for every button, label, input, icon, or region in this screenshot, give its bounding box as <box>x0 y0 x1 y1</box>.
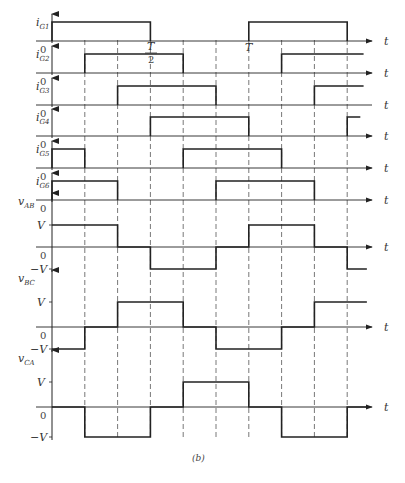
gate-pulse <box>314 86 363 105</box>
gate-pulse <box>216 181 314 200</box>
zero-label: 0 <box>40 171 46 182</box>
gate-row-iG6: t0iG6 <box>36 173 389 214</box>
zero-label: 0 <box>40 410 46 421</box>
gate-pulse <box>150 117 248 136</box>
voltage-row-vBC: t0V−VvBC <box>18 270 389 356</box>
gate-row-iG3: t0iG3 <box>36 78 389 119</box>
half-period-numerator: T <box>147 40 156 53</box>
positive-level-label: V <box>37 219 46 232</box>
time-axis-label: t <box>384 162 389 175</box>
zero-label: 0 <box>40 250 46 261</box>
time-axis-label: t <box>384 321 389 334</box>
gate-pulse <box>52 181 118 200</box>
voltage-waveform <box>52 302 367 349</box>
voltage-row-vAB: t0V−VvAB <box>18 193 389 276</box>
positive-level-label: V <box>37 296 46 309</box>
figure-caption: (b) <box>192 453 205 463</box>
negative-level-label: −V <box>30 431 48 444</box>
zero-label: 0 <box>40 76 46 87</box>
time-axis-label: t <box>384 194 389 207</box>
gate-pulse <box>282 54 364 73</box>
time-axis-label: t <box>384 35 389 48</box>
voltage-row-vCA: t0V−VvCA <box>18 350 389 444</box>
signal-label: iG1 <box>36 16 50 31</box>
gate-row-iG1: t0iG1 <box>36 14 389 55</box>
time-axis-label: t <box>384 241 389 254</box>
time-axis-label: t <box>384 401 389 414</box>
inverter-waveform-diagram: t0iG1t0iG2t0iG3t0iG4t0iG5t0iG6t0V−VvABt0… <box>0 0 405 483</box>
period-markers: T 2 T <box>145 40 254 65</box>
gate-pulse <box>118 86 216 105</box>
gate-pulse <box>183 149 281 168</box>
time-axis-label: t <box>384 99 389 112</box>
time-axis-label: t <box>384 130 389 143</box>
half-period-denominator: 2 <box>148 54 154 65</box>
zero-label: 0 <box>40 203 46 214</box>
gate-pulse <box>347 117 360 136</box>
zero-label: 0 <box>40 139 46 150</box>
waveform-rows: t0iG1t0iG2t0iG3t0iG4t0iG5t0iG6t0V−VvABt0… <box>18 14 389 444</box>
signal-label: vAB <box>18 195 34 210</box>
gate-row-iG2: t0iG2 <box>36 46 389 87</box>
negative-level-label: −V <box>30 343 48 356</box>
gate-pulse <box>52 22 150 41</box>
gate-row-iG5: t0iG5 <box>36 141 389 182</box>
gate-pulse <box>249 22 347 41</box>
gate-pulse <box>85 54 183 73</box>
positive-level-label: V <box>37 376 46 389</box>
gate-pulse <box>52 149 85 168</box>
voltage-waveform <box>52 382 367 437</box>
period-label: T <box>245 41 254 54</box>
zero-label: 0 <box>40 44 46 55</box>
gate-row-iG4: t0iG4 <box>36 109 389 150</box>
time-axis-label: t <box>384 67 389 80</box>
negative-level-label: −V <box>30 263 48 276</box>
zero-label: 0 <box>40 330 46 341</box>
